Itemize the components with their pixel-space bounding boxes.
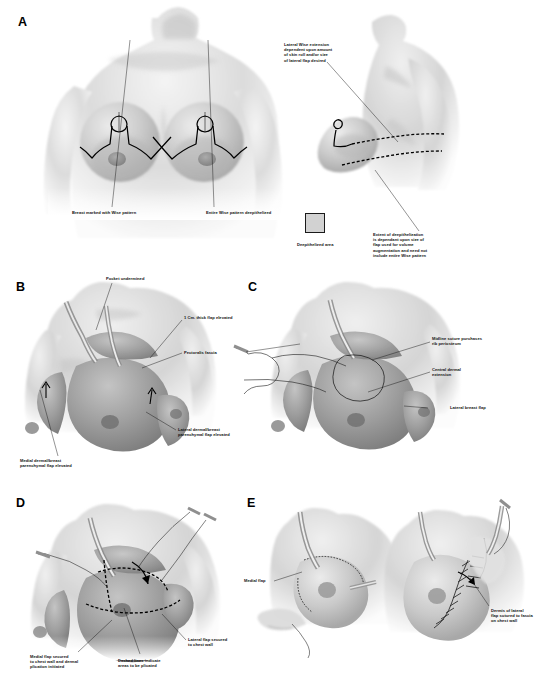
panel-letter-c: C (248, 281, 257, 294)
callout-deepithelized-area-legend: Deepithelized area (297, 242, 359, 247)
panel-c-leader-lines (246, 342, 430, 408)
callout-pectoralis-fascia: Pectoralis fascia (184, 350, 256, 355)
callout-lateral-flap-secured-chest-wall: Lateral flap secured to chest wall (188, 637, 258, 647)
panel-letter-d: D (16, 497, 25, 510)
callout-midline-suture-rib-periosteum: Midline suture purchases rib periosteum (432, 336, 518, 346)
panel-a-leader-lines (112, 40, 419, 231)
callout-dermis-lateral-flap-sutured: Dermis of lateral flap sutured to fascia… (491, 608, 540, 624)
panel-b-leader-lines (40, 283, 182, 456)
panel-c-illustration (234, 282, 472, 484)
callout-1cm-thick-flap-elevated: 1 Cm. thick flap elevated (184, 315, 272, 320)
callout-lateral-dermal-breast-parenchymal-flap: Lateral dermal/breast parenchymal flap e… (178, 427, 262, 437)
panel-a-frontal-illustration (44, 7, 288, 238)
callout-central-dermal-extension: Central dermal extension (432, 367, 510, 377)
deepithelized-area-swatch (305, 213, 325, 233)
callout-medial-flap: Medial flap (244, 578, 284, 583)
panel-letter-e: E (247, 497, 256, 510)
callout-dashed-lines-plicated: Dashed lines indicate areas to be plicat… (118, 658, 196, 668)
panel-d-leader-lines (78, 608, 186, 654)
panel-letter-b: B (16, 281, 25, 294)
callout-medial-dermal-breast-parenchymal-flap: Medial dermal/breast parenchymal flap el… (20, 458, 104, 468)
panel-e-right-leader-lines (470, 578, 489, 606)
surgical-technique-figure: A B C D E Lateral Wise extension depende… (0, 0, 540, 689)
callout-lateral-breast-flap: Lateral breast flap (450, 405, 522, 410)
callout-pocket-undermined: Pocket undermined (106, 276, 184, 281)
callout-extent-of-deepithelization: Extent of deepithelization is dependant … (373, 232, 455, 258)
callout-medial-flap-secured-chest-wall: Medial flap secured to chest wall and de… (30, 654, 110, 670)
panel-letter-a: A (18, 16, 27, 29)
callout-breast-marked-wise-pattern: Breast marked with Wise pattern (72, 210, 182, 215)
callout-lateral-wise-extension: Lateral Wise extension dependent upon am… (284, 42, 356, 63)
